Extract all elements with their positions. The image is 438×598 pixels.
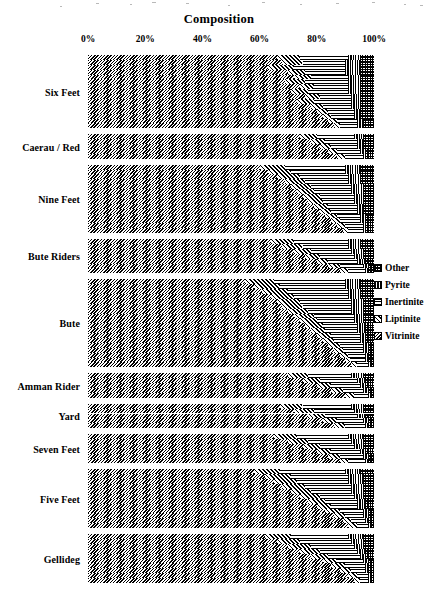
scan-artifact [404,4,406,5]
scan-artifact [420,5,423,6]
legend-swatch-other-icon [374,264,382,272]
bar-segment-other [368,459,374,464]
bar-segment-liptinite [334,423,345,428]
bar-segment-vitrinite [88,523,348,528]
scan-artifact [372,2,375,3]
x-tick-80: 80% [307,34,326,44]
chart-legend: OtherPyriteInertiniteLiptiniteVitrinite [374,259,438,344]
bar-segment-other [368,423,374,428]
bar-segment-inertinite [348,228,362,233]
scan-artifact [96,3,99,4]
legend-swatch-inertinite-icon [374,298,382,306]
bar-row [88,393,374,398]
legend-swatch-pyrite-icon [374,281,382,289]
bar-row [88,578,374,583]
bar-segment-other [363,123,374,128]
x-axis-tick-labels: 0%20%40%60%80%100% [88,34,374,48]
scan-artifact [228,5,230,6]
bar-segment-other [371,523,374,528]
composition-chart: Composition 0%20%40%60%80%100% Six FeetC… [0,0,438,598]
category-label-nine-feet: Nine Feet [38,193,80,204]
category-label-bute-riders: Bute Riders [28,251,80,262]
bar-segment-other [371,578,374,583]
x-tick-100: 100% [362,34,386,44]
bar-segment-liptinite [345,393,354,398]
scan-artifact [336,3,339,4]
scan-artifact [300,4,302,5]
legend-label: Other [385,263,409,273]
bar-segment-liptinite [348,523,357,528]
seam-group [88,534,374,583]
seam-group [88,165,374,233]
scan-artifact [262,2,265,3]
bar-segment-inertinite [345,423,365,428]
x-tick-0: 0% [81,34,95,44]
bar-segment-inertinite [357,362,368,367]
seam-group [88,469,374,528]
bar-segment-inertinite [340,123,357,128]
bar-row [88,154,374,159]
category-label-amman-rider: Amman Rider [18,380,80,391]
seam-group [88,279,374,367]
bar-segment-inertinite [354,393,368,398]
seam-group [88,373,374,397]
scan-artifact [152,2,156,3]
bar-segment-vitrinite [88,362,351,367]
seam-group [88,134,374,158]
y-axis-category-labels: Six FeetCaerau / RedNine FeetBute Riders… [0,55,84,583]
bar-segment-inertinite [360,578,369,583]
category-label-yard: Yard [58,410,80,421]
x-tick-20: 20% [136,34,155,44]
legend-label: Vitrinite [385,331,419,341]
bar-segment-other [365,154,374,159]
bar-segment-vitrinite [88,459,340,464]
bar-row [88,423,374,428]
scan-artifact [130,4,132,5]
bar-segment-vitrinite [88,268,340,273]
legend-item-pyrite: Pyrite [374,276,438,293]
bar-segment-other [365,228,374,233]
bar-row [88,123,374,128]
bar-segment-vitrinite [88,578,354,583]
bar-segment-vitrinite [88,123,334,128]
legend-item-vitrinite: Vitrinite [374,327,438,344]
legend-swatch-liptinite-icon [374,315,382,323]
bar-segment-other [371,362,374,367]
category-label-five-feet: Five Feet [40,493,80,504]
chart-title: Composition [0,12,438,27]
seam-group [88,434,374,463]
legend-label: Pyrite [385,280,410,290]
plot-area [88,55,374,583]
bar-segment-vitrinite [88,154,337,159]
legend-swatch-vitrinite-icon [374,332,382,340]
seam-group [88,239,374,273]
legend-item-inertinite: Inertinite [374,293,438,310]
bar-segment-inertinite [357,523,368,528]
legend-item-liptinite: Liptinite [374,310,438,327]
legend-label: Inertinite [385,297,424,307]
bar-segment-liptinite [337,154,346,159]
scan-artifact [60,6,62,7]
category-label-bute: Bute [60,318,80,329]
seam-group [88,55,374,128]
bar-row [88,523,374,528]
x-tick-60: 60% [250,34,269,44]
legend-label: Liptinite [385,314,420,324]
category-label-gellideg: Gellideg [44,553,80,564]
x-tick-40: 40% [193,34,212,44]
bar-row [88,459,374,464]
bar-segment-inertinite [345,154,362,159]
category-label-seven-feet: Seven Feet [33,443,80,454]
seam-group [88,404,374,428]
bar-segment-inertinite [348,459,365,464]
bar-row [88,362,374,367]
bar-segment-vitrinite [88,393,345,398]
legend-item-other: Other [374,259,438,276]
bar-segment-inertinite [348,268,365,273]
scan-artifact [186,3,189,4]
bar-segment-liptinite [340,268,349,273]
bar-segment-other [371,393,374,398]
bar-row [88,268,374,273]
bar-segment-vitrinite [88,228,343,233]
bar-segment-liptinite [340,459,349,464]
